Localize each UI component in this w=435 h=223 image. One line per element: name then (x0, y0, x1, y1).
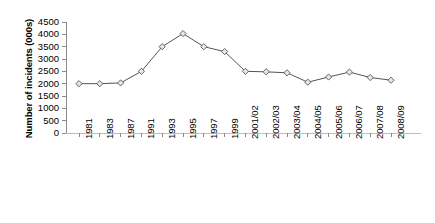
x-tick-label: 2005/06 (333, 105, 344, 139)
x-tick-label: 2004/05 (312, 105, 323, 139)
x-tick-label: 1987 (125, 118, 136, 139)
x-tick-label: 2003/04 (291, 105, 302, 139)
x-tick-label: 2008/09 (395, 105, 406, 139)
x-tick-label: 2006/07 (353, 105, 364, 139)
x-axis-tick-labels: 198119831987199119931995199719992001/022… (0, 0, 435, 223)
x-tick-label: 2002/03 (270, 105, 281, 139)
x-tick-label: 1997 (208, 118, 219, 139)
x-tick-label: 1983 (104, 118, 115, 139)
x-tick-label: 2007/08 (374, 105, 385, 139)
x-tick-label: 1981 (83, 118, 94, 139)
x-tick-label: 1993 (166, 118, 177, 139)
x-tick-label: 2001/02 (249, 105, 260, 139)
x-tick-label: 1995 (187, 118, 198, 139)
x-tick-label: 1991 (145, 118, 156, 139)
line-chart: Number of incidents (000s) 0500100015002… (0, 0, 435, 223)
x-tick-label: 1999 (229, 118, 240, 139)
